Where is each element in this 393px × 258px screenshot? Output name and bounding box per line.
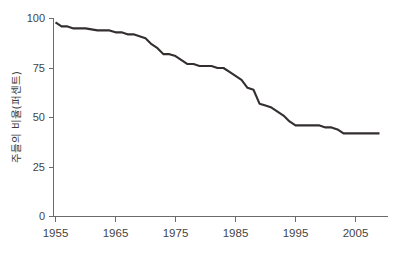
x-tick-labels: 1955 1965 1975 1985 1995 2005 [43,227,369,239]
y-axis-title: 주들의 비율(퍼센트) [10,71,22,163]
x-tick-label-2005: 2005 [343,227,369,239]
y-tick-labels: 100 75 50 25 0 [27,12,45,222]
y-tick-label-75: 75 [33,62,45,74]
x-tick-marks [56,217,356,222]
y-tick-marks [49,19,54,217]
x-tick-label-1995: 1995 [283,227,309,239]
data-series-line [56,22,380,133]
y-tick-label-50: 50 [33,111,45,123]
y-tick-label-0: 0 [39,210,45,222]
x-tick-label-1955: 1955 [43,227,69,239]
y-tick-label-25: 25 [33,161,45,173]
chart-container: 100 75 50 25 0 1955 1965 1975 1985 1995 … [0,0,393,258]
x-tick-label-1985: 1985 [223,227,249,239]
y-tick-label-100: 100 [27,12,45,24]
line-chart: 100 75 50 25 0 1955 1965 1975 1985 1995 … [0,0,393,258]
x-tick-label-1975: 1975 [163,227,189,239]
x-tick-label-1965: 1965 [103,227,129,239]
